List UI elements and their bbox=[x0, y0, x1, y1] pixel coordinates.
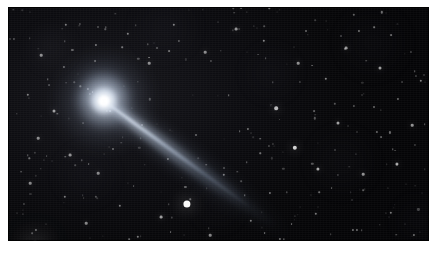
comet-photograph bbox=[8, 7, 429, 241]
sky-nebulosity bbox=[8, 7, 429, 241]
photo-page bbox=[0, 0, 443, 254]
